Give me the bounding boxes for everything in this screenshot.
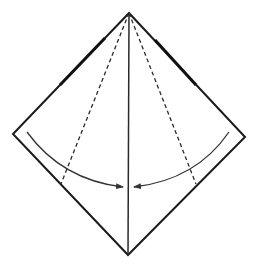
diagram-svg xyxy=(0,0,254,276)
origami-diagram xyxy=(0,0,254,276)
center-crease xyxy=(128,13,129,255)
